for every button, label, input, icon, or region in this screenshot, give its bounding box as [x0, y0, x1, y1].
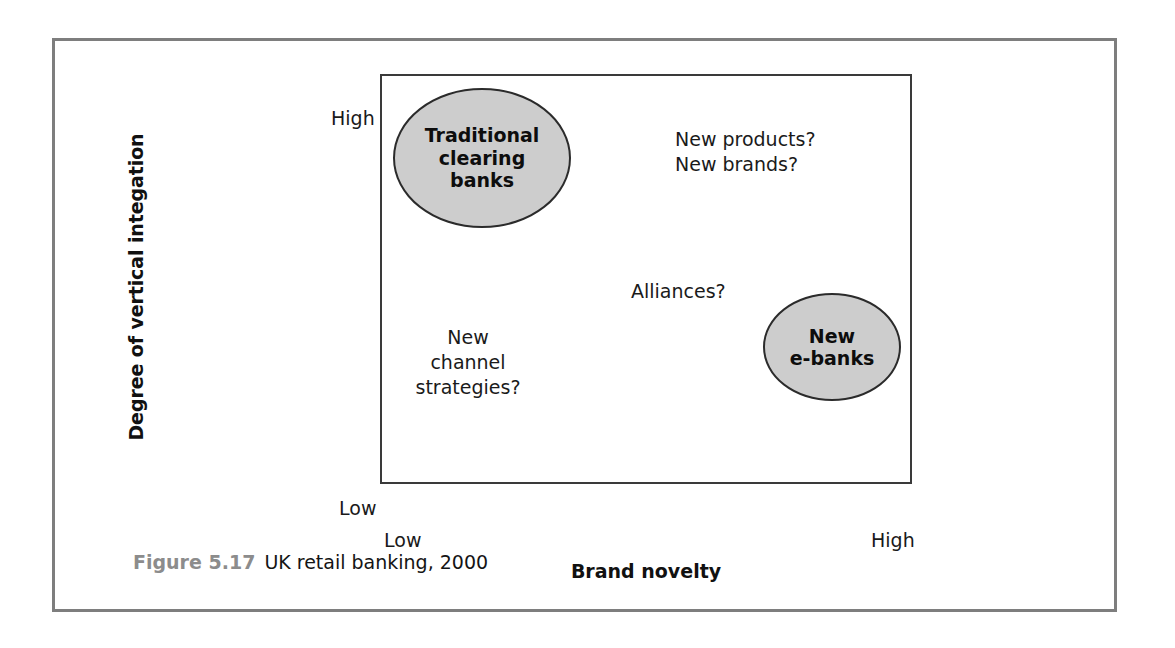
annotation-new-channel-strategies: New channel strategies? — [403, 325, 533, 400]
x-axis-tick-low: Low — [384, 531, 421, 550]
figure-caption: Figure 5.17UK retail banking, 2000 — [133, 551, 488, 573]
annotation-alliances: Alliances? — [631, 279, 726, 304]
x-axis-tick-high: High — [871, 531, 915, 550]
y-axis-title: Degree of vertical integation — [125, 127, 147, 447]
figure-caption-text: UK retail banking, 2000 — [264, 551, 488, 573]
figure-caption-number: Figure 5.17 — [133, 551, 255, 573]
bubble-traditional-clearing-banks: Traditional clearing banks — [393, 88, 571, 228]
annotation-new-products: New products? New brands? — [675, 127, 816, 177]
figure-frame: High Low Low High Degree of vertical int… — [52, 38, 1117, 612]
y-axis-tick-high: High — [331, 109, 375, 128]
bubble-new-e-banks: New e-banks — [763, 293, 901, 401]
y-axis-tick-low: Low — [339, 499, 376, 518]
